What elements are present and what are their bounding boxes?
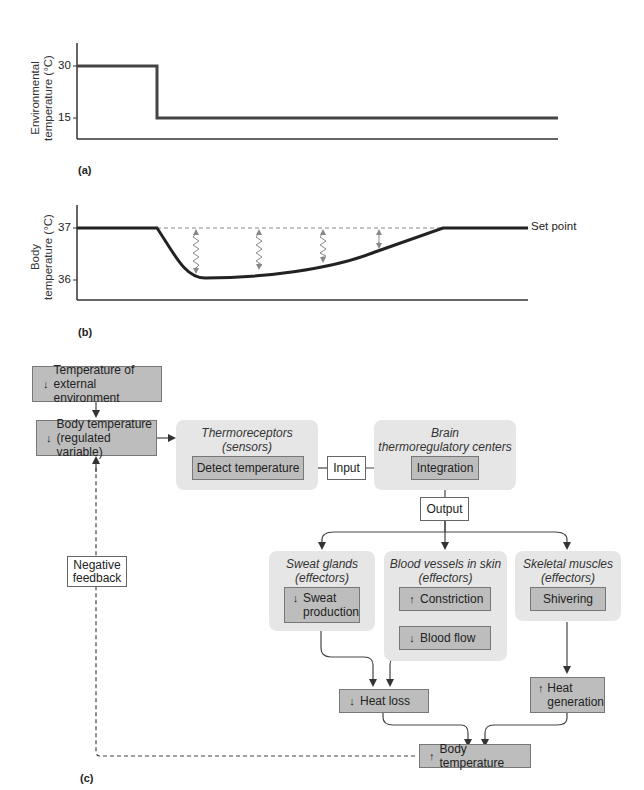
tick-15: 15	[58, 111, 71, 123]
box-text: Body temperature	[439, 742, 530, 770]
box-text: Temperature of external environment	[54, 363, 161, 405]
body-temperature-result-box: ↑ Body temperature	[419, 744, 531, 768]
output-box: Output	[420, 497, 469, 521]
ylabel-line2: temperature (°C)	[42, 48, 55, 148]
set-point-label: Set point	[531, 220, 576, 232]
ylabel-line2: temperature (°C)	[42, 207, 55, 307]
down-arrow-icon: ↓	[407, 631, 417, 645]
panel-label-b: (b)	[78, 326, 92, 338]
detect-temperature-box: Detect temperature	[192, 456, 304, 480]
box-text: Input	[333, 461, 360, 475]
tick-37: 37	[58, 221, 71, 233]
box-text: Output	[426, 502, 462, 516]
ylabel-line1: Body	[29, 207, 42, 307]
down-arrow-icon: ↓	[44, 431, 54, 445]
constriction-box: ↑ Constriction	[399, 587, 491, 611]
up-arrow-icon: ↑	[537, 681, 544, 695]
group-title: Brain thermoregulatory centers	[374, 426, 516, 454]
group-title: Thermoreceptors (sensors)	[176, 426, 318, 454]
down-arrow-icon: ↓	[291, 591, 300, 605]
box-text: Sweat production	[303, 591, 359, 619]
group-title: Sweat glands (effectors)	[269, 557, 375, 585]
input-box: Input	[327, 456, 366, 480]
group-title: Blood vessels in skin (effectors)	[384, 557, 507, 585]
box-text: Shivering	[543, 592, 593, 606]
negative-feedback-box: Negative feedback	[67, 556, 127, 587]
box-text: Body temperature (regulated variable)	[57, 417, 156, 459]
tick-36: 36	[58, 273, 71, 285]
graph-b-ylabel: Body temperature (°C)	[29, 207, 57, 307]
sweat-production-box: ↓ Sweat production	[284, 587, 360, 623]
tick-30: 30	[58, 59, 71, 71]
box-text: Negative feedback	[73, 559, 122, 585]
body-temperature-regulated-box: ↓ Body temperature (regulated variable)	[36, 420, 157, 456]
ylabel-line1: Environmental	[29, 48, 42, 148]
box-text: Detect temperature	[197, 461, 300, 475]
graph-a	[73, 43, 558, 139]
box-text: Integration	[417, 461, 474, 475]
integration-box: Integration	[411, 456, 479, 480]
blood-flow-box: ↓ Blood flow	[399, 626, 491, 650]
heat-generation-box: ↑ Heat generation	[530, 677, 605, 713]
panel-label-a: (a)	[78, 164, 91, 176]
down-arrow-icon: ↓	[41, 377, 51, 391]
box-text: Constriction	[420, 592, 483, 606]
panel-label-c: (c)	[80, 772, 93, 784]
box-text: Blood flow	[420, 631, 475, 645]
shivering-box: Shivering	[530, 587, 606, 611]
up-arrow-icon: ↑	[407, 592, 417, 606]
group-title: Skeletal muscles (effectors)	[515, 557, 621, 585]
external-environment-box: ↓ Temperature of external environment	[32, 366, 162, 402]
up-arrow-icon: ↑	[427, 749, 436, 763]
graph-b	[73, 205, 528, 300]
heat-loss-box: ↓ Heat loss	[339, 689, 429, 713]
down-arrow-icon: ↓	[347, 694, 357, 708]
box-text: Heat generation	[547, 681, 604, 709]
graph-a-ylabel: Environmental temperature (°C)	[29, 48, 57, 148]
box-text: Heat loss	[360, 694, 410, 708]
